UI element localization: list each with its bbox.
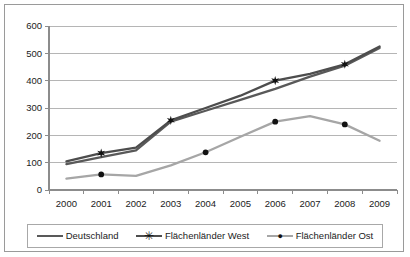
legend-swatch-flaechenlaender-ost: ● [267, 231, 293, 241]
svg-text:2004: 2004 [195, 198, 216, 209]
x-axis-ticks [49, 190, 397, 194]
plot-area: 0100200300400500600 20002001200220032004… [5, 5, 405, 210]
legend-item-flaechenlaender-west: ✳ Flächenländer West [136, 231, 249, 241]
svg-text:300: 300 [26, 102, 42, 113]
legend-swatch-deutschland [37, 231, 63, 241]
svg-text:0: 0 [37, 184, 42, 195]
legend-label-flaechenlaender-ost: Flächenländer Ost [296, 231, 374, 241]
svg-text:2001: 2001 [91, 198, 112, 209]
svg-text:100: 100 [26, 157, 42, 168]
legend-line-deutschland [37, 235, 63, 237]
svg-text:2007: 2007 [299, 198, 320, 209]
svg-text:600: 600 [26, 20, 42, 31]
svg-text:2000: 2000 [56, 198, 77, 209]
dot-marker-icon: ● [276, 231, 285, 241]
legend-item-deutschland: Deutschland [37, 231, 119, 241]
gridlines [49, 26, 397, 163]
svg-text:2008: 2008 [334, 198, 355, 209]
y-axis-tick-labels: 0100200300400500600 [26, 20, 42, 195]
svg-text:500: 500 [26, 48, 42, 59]
svg-text:2006: 2006 [265, 198, 286, 209]
svg-text:2002: 2002 [125, 198, 146, 209]
legend-label-flaechenlaender-west: Flächenländer West [165, 231, 249, 241]
legend-item-flaechenlaender-ost: ● Flächenländer Ost [267, 231, 374, 241]
series-lines [66, 47, 379, 179]
svg-text:2005: 2005 [230, 198, 251, 209]
svg-text:400: 400 [26, 75, 42, 86]
legend-swatch-flaechenlaender-west: ✳ [136, 231, 162, 241]
legend-label-deutschland: Deutschland [66, 231, 119, 241]
line-chart: 0100200300400500600 20002001200220032004… [5, 5, 405, 210]
svg-text:200: 200 [26, 130, 42, 141]
chart-legend: Deutschland ✳ Flächenländer West ● Fläch… [27, 224, 383, 248]
svg-text:2003: 2003 [160, 198, 181, 209]
x-axis-tick-labels: 2000200120022003200420052006200720082009 [56, 198, 390, 209]
star-marker-icon: ✳ [145, 231, 154, 241]
chart-frame: 0100200300400500600 20002001200220032004… [4, 4, 404, 252]
svg-text:2009: 2009 [369, 198, 390, 209]
